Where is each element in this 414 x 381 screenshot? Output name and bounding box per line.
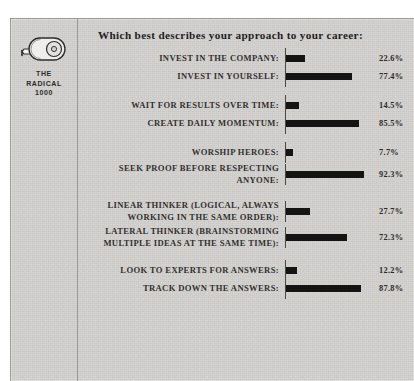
bar-group: WAIT FOR RESULTS OVER TIME:14.5%CREATE D… [78, 98, 414, 131]
bar-row-label: CREATE DAILY MOMENTUM: [78, 118, 285, 130]
bar-row[interactable]: LATERAL THINKER (BRAINSTORMING MULTIPLE … [78, 226, 414, 249]
chart-title: Which best describes your approach to yo… [98, 29, 363, 41]
bar-row-label: TRACK DOWN THE ANSWERS: [78, 283, 285, 295]
brand-line-2: RADICAL [11, 79, 77, 89]
bar-track [285, 204, 371, 219]
brand-line-3: 1000 [11, 88, 77, 98]
bar-value-label: 7.7% [379, 148, 399, 157]
bar-axis-line [285, 227, 286, 248]
bar-axis-line [285, 66, 286, 87]
bar [286, 55, 305, 62]
bar-row[interactable]: CREATE DAILY MOMENTUM:85.5% [78, 116, 414, 131]
bar-row-label: SEEK PROOF BEFORE RESPECTING ANYONE: [78, 163, 285, 186]
bar-value-label: 14.5% [379, 101, 404, 110]
bar-track [285, 51, 371, 66]
bar-row[interactable]: TRACK DOWN THE ANSWERS:87.8% [78, 281, 414, 296]
bar-value-label: 22.6% [379, 54, 404, 63]
bar [286, 102, 298, 109]
bar-axis-line [285, 164, 286, 185]
bar-track [285, 167, 371, 182]
bar-track [285, 116, 371, 131]
bar-value-label: 77.4% [379, 72, 404, 81]
bar-axis-line [285, 278, 286, 299]
bar-row-label: INVEST IN THE COMPANY: [78, 53, 285, 65]
bar-track [285, 281, 371, 296]
bar-track [285, 230, 371, 245]
bar [286, 285, 360, 292]
bar-row-label: LINEAR THINKER (LOGICAL, ALWAYS WORKING … [78, 200, 285, 223]
brand-name: THE RADICAL 1000 [11, 69, 77, 98]
brand-line-1: THE [11, 69, 77, 79]
bar-axis-line [285, 142, 286, 163]
bar-value-label: 87.8% [379, 284, 404, 293]
bar-row-label: WAIT FOR RESULTS OVER TIME: [78, 100, 285, 112]
page-root: THE RADICAL 1000 Which best describes yo… [0, 0, 414, 381]
bar-axis-line [285, 201, 286, 222]
bar-row[interactable]: SEEK PROOF BEFORE RESPECTING ANYONE:92.3… [78, 163, 414, 186]
bar-value-label: 72.3% [379, 233, 404, 242]
bar-value-label: 27.7% [379, 207, 404, 216]
bar-track [285, 98, 371, 113]
bar-group: WORSHIP HEROES:7.7%SEEK PROOF BEFORE RES… [78, 145, 414, 186]
bar-value-label: 12.2% [379, 266, 404, 275]
bar [286, 171, 364, 178]
bar [286, 267, 296, 274]
tape-measure-icon [18, 29, 70, 63]
bar-track [285, 263, 371, 278]
survey-panel: THE RADICAL 1000 Which best describes yo… [10, 18, 414, 381]
bar-value-label: 92.3% [379, 170, 404, 179]
bar-row[interactable]: LOOK TO EXPERTS FOR ANSWERS:12.2% [78, 263, 414, 278]
chart-area: Which best describes your approach to yo… [78, 19, 414, 381]
bar-row-label: WORSHIP HEROES: [78, 147, 285, 159]
bar [286, 234, 347, 241]
bar-value-label: 85.5% [379, 119, 404, 128]
bar-group: LINEAR THINKER (LOGICAL, ALWAYS WORKING … [78, 200, 414, 249]
bar-track [285, 145, 371, 160]
bar [286, 208, 309, 215]
bar-axis-line [285, 113, 286, 134]
bar [286, 120, 358, 127]
bar-row-label: LOOK TO EXPERTS FOR ANSWERS: [78, 265, 285, 277]
bar-row[interactable]: INVEST IN YOURSELF:77.4% [78, 69, 414, 84]
brand-rail: THE RADICAL 1000 [11, 19, 77, 381]
bar-group: INVEST IN THE COMPANY:22.6%INVEST IN YOU… [78, 51, 414, 84]
bar-row-label: LATERAL THINKER (BRAINSTORMING MULTIPLE … [78, 226, 285, 249]
bar [286, 73, 351, 80]
bar-row[interactable]: LINEAR THINKER (LOGICAL, ALWAYS WORKING … [78, 200, 414, 223]
bar-row[interactable]: INVEST IN THE COMPANY:22.6% [78, 51, 414, 66]
bar-group-list: INVEST IN THE COMPANY:22.6%INVEST IN YOU… [78, 51, 414, 310]
bar-row[interactable]: WAIT FOR RESULTS OVER TIME:14.5% [78, 98, 414, 113]
bar-track [285, 69, 371, 84]
bar-group: LOOK TO EXPERTS FOR ANSWERS:12.2%TRACK D… [78, 263, 414, 296]
bar-row[interactable]: WORSHIP HEROES:7.7% [78, 145, 414, 160]
bar [286, 149, 293, 156]
bar-row-label: INVEST IN YOURSELF: [78, 71, 285, 83]
